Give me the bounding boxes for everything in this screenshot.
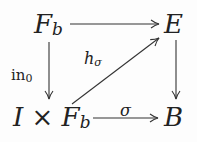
commutative-diagram: Fb E I × Fb B in0 hσ σ	[0, 0, 197, 142]
node-top-left-base: F	[34, 9, 52, 39]
label-bottom-arrow: σ	[120, 103, 131, 119]
arrow-diagonal	[72, 38, 159, 104]
label-diagonal-sub: σ	[94, 56, 102, 69]
node-top-left: Fb	[34, 11, 63, 37]
node-bottom-left: I × Fb	[13, 104, 91, 130]
node-top-right: E	[164, 11, 183, 37]
node-bottom-left-pre: I	[13, 102, 23, 132]
label-left-sub: 0	[25, 72, 32, 85]
label-diagonal-arrow: hσ	[84, 51, 102, 67]
label-left-base: in	[11, 66, 25, 84]
node-bottom-right-base: B	[164, 102, 183, 132]
node-bottom-left-base: F	[62, 102, 80, 132]
node-top-right-base: E	[164, 9, 183, 39]
node-bottom-left-sub: b	[80, 112, 91, 132]
times-symbol: ×	[32, 102, 54, 132]
node-bottom-right: B	[164, 104, 183, 130]
label-bottom-text: σ	[120, 101, 131, 120]
label-left-arrow: in0	[11, 68, 32, 83]
node-top-left-sub: b	[52, 19, 63, 39]
label-diagonal-base: h	[84, 49, 94, 68]
